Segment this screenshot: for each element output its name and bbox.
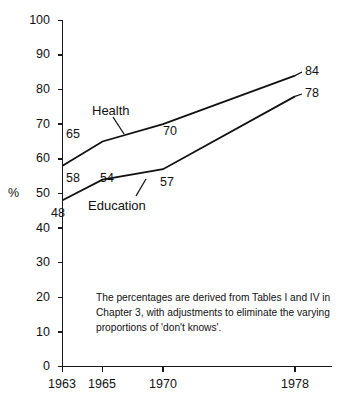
health-leader-line [113, 117, 124, 134]
chart-annotation-line-1: The percentages are derived from Tables … [96, 291, 328, 306]
y-tick-label-0: 0 [24, 360, 50, 373]
health-endpoint-leader [295, 72, 302, 76]
x-tick-label-1965: 1965 [80, 378, 124, 391]
x-tick-label-1970: 1970 [141, 378, 185, 391]
value-label-health-1963: 58 [66, 172, 80, 185]
chart-canvas [0, 0, 342, 406]
chart-annotation-line-2: Chapter 3, with adjustments to eliminate… [96, 306, 328, 321]
series-line-health [63, 76, 296, 166]
y-tick-label-50: 50 [24, 187, 50, 200]
x-tick-label-1963: 1963 [40, 378, 84, 391]
value-label-education-1965: 54 [100, 172, 114, 185]
series-label-health: Health [92, 104, 130, 117]
y-tick-label-90: 90 [24, 48, 50, 61]
y-tick-label-100: 100 [24, 14, 50, 27]
line-chart: 100 90 80 70 60 50 40 30 20 10 0 % 1963 … [0, 0, 342, 406]
y-tick-label-60: 60 [24, 152, 50, 165]
y-tick-label-10: 10 [24, 326, 50, 339]
y-tick-label-70: 70 [24, 118, 50, 131]
education-leader-line [136, 179, 146, 196]
y-tick-label-40: 40 [24, 222, 50, 235]
chart-annotation-note: The percentages are derived from Tables … [96, 291, 328, 335]
x-tick-label-1978: 1978 [273, 378, 317, 391]
y-tick-label-20: 20 [24, 291, 50, 304]
y-tick-label-80: 80 [24, 83, 50, 96]
chart-annotation-line-3: proportions of 'don't knows'. [96, 321, 328, 336]
y-axis-unit-label: % [8, 187, 19, 200]
value-label-education-1978: 78 [305, 87, 319, 100]
value-label-education-1970: 57 [160, 176, 174, 189]
value-label-health-1978: 84 [305, 65, 319, 78]
education-endpoint-leader [295, 94, 302, 96]
x-axis-ticks [63, 367, 296, 373]
value-label-education-1963: 48 [51, 207, 65, 220]
series-label-education: Education [88, 199, 146, 212]
value-label-health-1970: 70 [163, 125, 177, 138]
value-label-health-1965: 65 [66, 128, 80, 141]
y-tick-label-30: 30 [24, 256, 50, 269]
